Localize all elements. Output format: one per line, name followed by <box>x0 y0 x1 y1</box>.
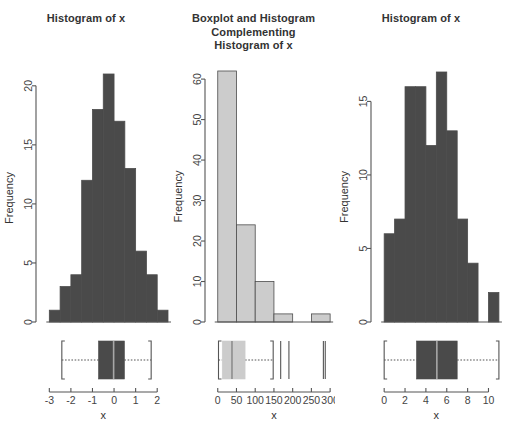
y-axis-label: Frequency <box>338 171 350 223</box>
y-axis-tick-label: 10 <box>357 169 369 181</box>
histogram-bars <box>218 71 330 322</box>
boxplot <box>62 341 151 379</box>
x-axis: 0246810x <box>381 388 494 421</box>
x-axis-tick-label: -1 <box>88 394 97 406</box>
y-axis-tick-label: 0 <box>357 319 369 325</box>
histogram-panel-2: Boxplot and Histogram Complementing Hist… <box>172 0 335 435</box>
x-axis-tick-label: 250 <box>303 394 321 406</box>
x-axis-tick-label: 2 <box>154 394 160 406</box>
y-axis-tick-label: 30 <box>191 195 203 207</box>
x-axis-label: x <box>434 409 440 421</box>
y-axis-tick-label: 0 <box>22 319 34 325</box>
y-axis-tick-label: 0 <box>191 319 203 325</box>
histogram-bar <box>426 146 436 322</box>
x-axis-tick-label: 0 <box>215 394 221 406</box>
histogram-bar <box>114 121 125 322</box>
x-axis-tick-label: 100 <box>246 394 264 406</box>
histogram-bar <box>125 168 136 322</box>
y-axis-tick-label: 60 <box>191 73 203 85</box>
histogram-bar <box>457 219 467 322</box>
y-axis-tick-label: 5 <box>22 260 34 266</box>
y-axis: 05101520Frequency <box>3 80 36 325</box>
x-axis-label: x <box>101 409 107 421</box>
x-axis: 050100150200250300x <box>215 388 335 421</box>
histogram-bar <box>405 87 415 322</box>
y-axis-tick-label: 10 <box>22 198 34 210</box>
y-axis: 051015Frequency <box>338 95 371 325</box>
y-axis-tick-label: 15 <box>22 139 34 151</box>
x-axis: -3-2-1012x <box>45 388 161 421</box>
x-axis-tick-label: -2 <box>66 394 75 406</box>
histogram-bar <box>468 263 478 322</box>
histogram-bar <box>384 234 394 322</box>
y-axis-tick-label: 15 <box>357 95 369 107</box>
histogram-bar <box>311 314 330 322</box>
x-axis-tick-label: 4 <box>423 394 429 406</box>
y-axis-tick-label: 40 <box>191 154 203 166</box>
histogram-panel-1: Histogram of x 05101520Frequency-3-2-101… <box>0 0 172 435</box>
histogram-bar <box>146 275 157 322</box>
boxplot-box <box>222 341 245 379</box>
x-axis-tick-label: 2 <box>402 394 408 406</box>
histogram-bar <box>71 275 82 322</box>
y-axis-label: Frequency <box>3 172 15 224</box>
histogram-bar <box>255 282 274 322</box>
histogram-bar <box>49 310 60 322</box>
x-axis-tick-label: 50 <box>231 394 243 406</box>
y-axis-tick-label: 50 <box>191 114 203 126</box>
histogram-bar <box>103 74 114 322</box>
histogram-bar <box>92 109 103 322</box>
panel-2-plot: 0102030405060Frequency050100150200250300… <box>172 0 335 435</box>
histogram-bar <box>82 180 93 322</box>
boxplot-box <box>99 341 125 379</box>
histogram-bar <box>60 287 71 322</box>
y-axis-tick-label: 5 <box>357 245 369 251</box>
histogram-bars <box>49 74 168 322</box>
boxplot <box>218 341 325 379</box>
panel-1-plot: 05101520Frequency-3-2-1012x <box>0 0 172 435</box>
y-axis-tick-label: 10 <box>191 276 203 288</box>
histogram-bar <box>395 219 405 322</box>
y-axis: 0102030405060Frequency <box>172 73 205 325</box>
y-axis-tick-label: 20 <box>22 80 34 92</box>
x-axis-tick-label: -3 <box>45 394 54 406</box>
x-axis-tick-label: 200 <box>284 394 302 406</box>
boxplot <box>384 341 499 379</box>
x-axis-tick-label: 1 <box>133 394 139 406</box>
x-axis-tick-label: 150 <box>265 394 283 406</box>
x-axis-label: x <box>271 409 277 421</box>
panel-3-plot: 051015Frequency0246810x <box>335 0 507 435</box>
x-axis-tick-label: 0 <box>381 394 387 406</box>
histogram-bar <box>236 225 255 322</box>
x-axis-tick-label: 300 <box>321 394 335 406</box>
histogram-bar <box>218 71 237 322</box>
histogram-bar <box>136 251 147 322</box>
histogram-bar <box>447 131 457 322</box>
y-axis-tick-label: 20 <box>191 235 203 247</box>
x-axis-tick-label: 0 <box>111 394 117 406</box>
histogram-bar <box>157 310 168 322</box>
histogram-bars <box>384 72 499 322</box>
histogram-bar <box>436 72 446 322</box>
histogram-bar <box>488 293 498 322</box>
x-axis-tick-label: 10 <box>483 394 495 406</box>
figure-canvas: Histogram of x 05101520Frequency-3-2-101… <box>0 0 507 435</box>
y-axis-label: Frequency <box>172 170 184 222</box>
histogram-bar <box>415 87 425 322</box>
histogram-panel-3: Histogram of x 051015Frequency0246810x <box>335 0 507 435</box>
histogram-bar <box>274 314 293 322</box>
x-axis-tick-label: 8 <box>465 394 471 406</box>
x-axis-tick-label: 6 <box>444 394 450 406</box>
